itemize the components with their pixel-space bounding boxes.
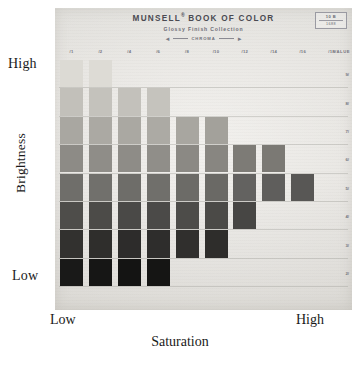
color-chip-2-2 <box>89 259 112 286</box>
chroma-header-14: /14 <box>271 49 278 54</box>
saturation-high-label: High <box>296 312 324 328</box>
value-tick-7: 7/ <box>345 129 349 134</box>
color-chip-6-2 <box>147 259 170 286</box>
color-chip-8-3 <box>176 230 199 257</box>
chroma-header-1: /1 <box>70 49 74 54</box>
color-chip-12-6 <box>233 145 256 172</box>
saturation-low-label: Low <box>50 312 76 328</box>
brightness-high-label: High <box>8 56 37 72</box>
saturation-axis-title: Saturation <box>0 334 360 350</box>
chroma-header-16: /16 <box>299 49 306 54</box>
rule-left <box>173 38 188 39</box>
color-chip-12-4 <box>233 202 256 229</box>
color-chip-2-3 <box>89 230 112 257</box>
color-chip-2-6 <box>89 145 112 172</box>
color-chip-12-5 <box>233 174 256 201</box>
value-tick-3: 3/ <box>345 242 349 247</box>
chroma-header-2: /2 <box>98 49 102 54</box>
color-chip-1-3 <box>60 230 83 257</box>
screenshot-root: High Brightness Low Low High Saturation … <box>0 0 360 376</box>
color-chip-8-4 <box>176 202 199 229</box>
chroma-header-10: /10 <box>213 49 220 54</box>
hue-code-box: 10 B 1688 <box>315 12 347 29</box>
brightness-low-label: Low <box>12 268 38 284</box>
color-chip-2-5 <box>89 174 112 201</box>
chroma-header-12: /12 <box>242 49 249 54</box>
color-chip-6-8 <box>147 88 170 115</box>
chroma-header-6: /6 <box>156 49 160 54</box>
value-tick-8: 8/ <box>345 100 349 105</box>
chart-title-brand: MUNSELL <box>133 14 181 23</box>
color-chip-2-7 <box>89 117 112 144</box>
hue-code-number: 1688 <box>316 22 346 26</box>
color-chip-4-5 <box>118 174 141 201</box>
hue-code-divider <box>319 20 343 21</box>
chroma-header-row: VALUE /1/2/4/6/8/10/12/14/16/18 <box>55 49 352 58</box>
chart-title: MUNSELL® BOOK OF COLOR <box>55 12 352 23</box>
color-chip-6-3 <box>147 230 170 257</box>
registered-mark-icon: ® <box>181 12 185 18</box>
value-tick-4: 4/ <box>345 214 349 219</box>
value-column-header: VALUE <box>334 49 350 54</box>
color-chip-4-6 <box>118 145 141 172</box>
chroma-header-18: /18 <box>328 49 335 54</box>
color-chip-14-6 <box>262 145 285 172</box>
color-chip-6-4 <box>147 202 170 229</box>
color-chip-8-7 <box>176 117 199 144</box>
color-chip-8-5 <box>176 174 199 201</box>
arrow-left-icon: ◄ <box>164 36 170 42</box>
chroma-axis-label: CHROMA <box>191 36 215 41</box>
color-chip-1-6 <box>60 145 83 172</box>
chart-subtitle: Glossy Finish Collection <box>55 26 352 32</box>
color-chip-4-4 <box>118 202 141 229</box>
value-tick-2: 2/ <box>345 271 349 276</box>
color-chip-4-7 <box>118 117 141 144</box>
hue-code-value: 10 B <box>316 15 346 20</box>
color-chip-6-7 <box>147 117 170 144</box>
color-chip-6-6 <box>147 145 170 172</box>
color-chip-1-4 <box>60 202 83 229</box>
value-tick-9: 9/ <box>345 72 349 77</box>
color-chip-4-3 <box>118 230 141 257</box>
color-chip-10-4 <box>205 202 228 229</box>
color-chip-2-8 <box>89 88 112 115</box>
color-chip-6-5 <box>147 174 170 201</box>
chart-header: MUNSELL® BOOK OF COLOR Glossy Finish Col… <box>55 12 352 42</box>
color-chip-1-7 <box>60 117 83 144</box>
color-chip-8-6 <box>176 145 199 172</box>
color-chip-4-2 <box>118 259 141 286</box>
value-tick-5: 5/ <box>345 185 349 190</box>
color-chip-2-4 <box>89 202 112 229</box>
color-chip-10-7 <box>205 117 228 144</box>
munsell-chart-page: MUNSELL® BOOK OF COLOR Glossy Finish Col… <box>55 8 352 310</box>
brightness-axis-title: Brightness <box>13 120 29 206</box>
color-chip-10-6 <box>205 145 228 172</box>
color-chip-1-2 <box>60 259 83 286</box>
chroma-axis-indicator: ◄ CHROMA ► <box>55 36 352 42</box>
arrow-right-icon: ► <box>237 36 243 42</box>
color-chip-1-8 <box>60 88 83 115</box>
chroma-header-8: /8 <box>185 49 189 54</box>
chroma-header-4: /4 <box>127 49 131 54</box>
value-tick-6: 6/ <box>345 157 349 162</box>
color-chip-16-5 <box>291 174 314 201</box>
rule-right <box>219 38 234 39</box>
color-chip-10-3 <box>205 230 228 257</box>
color-chip-2-9 <box>89 60 112 87</box>
chart-title-rest: BOOK OF COLOR <box>188 14 274 23</box>
color-chip-1-9 <box>60 60 83 87</box>
color-chip-1-5 <box>60 174 83 201</box>
color-chip-14-5 <box>262 174 285 201</box>
color-chip-4-8 <box>118 88 141 115</box>
color-chip-10-5 <box>205 174 228 201</box>
